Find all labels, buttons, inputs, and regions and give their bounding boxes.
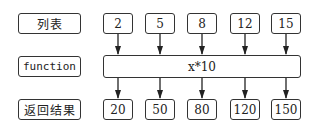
arrows <box>0 0 320 131</box>
